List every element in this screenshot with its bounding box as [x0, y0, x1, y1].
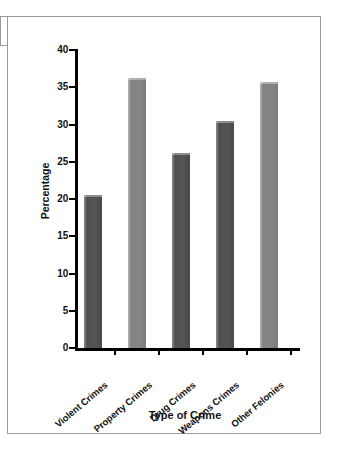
y-axis-tick	[69, 49, 75, 51]
x-axis-tick	[114, 351, 116, 355]
y-axis-tick-label: 0	[22, 342, 68, 353]
bar	[84, 195, 102, 348]
y-axis-tick-label: 40	[22, 44, 68, 55]
y-axis-tick	[69, 86, 75, 88]
y-axis-tick-label: 10	[22, 268, 68, 279]
x-axis-tick	[202, 351, 204, 355]
y-axis-tick-label: 5	[22, 305, 68, 316]
bar-highlight	[84, 195, 102, 197]
bar	[128, 78, 146, 348]
bar-chart: 0510152025303540 Violent CrimesProperty …	[0, 0, 339, 451]
y-axis-tick	[69, 273, 75, 275]
bar	[216, 121, 234, 348]
y-axis-tick	[69, 124, 75, 126]
x-axis-tick	[158, 351, 160, 355]
plot-area	[78, 50, 300, 348]
y-axis-tick	[69, 235, 75, 237]
bar-highlight	[172, 153, 190, 155]
y-axis-tick	[69, 310, 75, 312]
bar	[260, 82, 278, 348]
x-axis-tick	[246, 351, 248, 355]
y-axis-title: Percentage	[39, 141, 51, 241]
bar	[172, 153, 190, 348]
y-axis-tick	[69, 161, 75, 163]
y-axis-tick	[69, 198, 75, 200]
y-axis-tick-label: 30	[22, 119, 68, 130]
bar-highlight	[216, 121, 234, 123]
x-axis-title: Type of Crime	[60, 409, 310, 421]
y-axis-tick	[69, 347, 75, 349]
x-axis-line	[75, 348, 300, 351]
bar-highlight	[260, 82, 278, 84]
x-axis-tick	[290, 351, 292, 355]
y-axis-tick-label: 35	[22, 81, 68, 92]
bar-highlight	[128, 78, 146, 80]
